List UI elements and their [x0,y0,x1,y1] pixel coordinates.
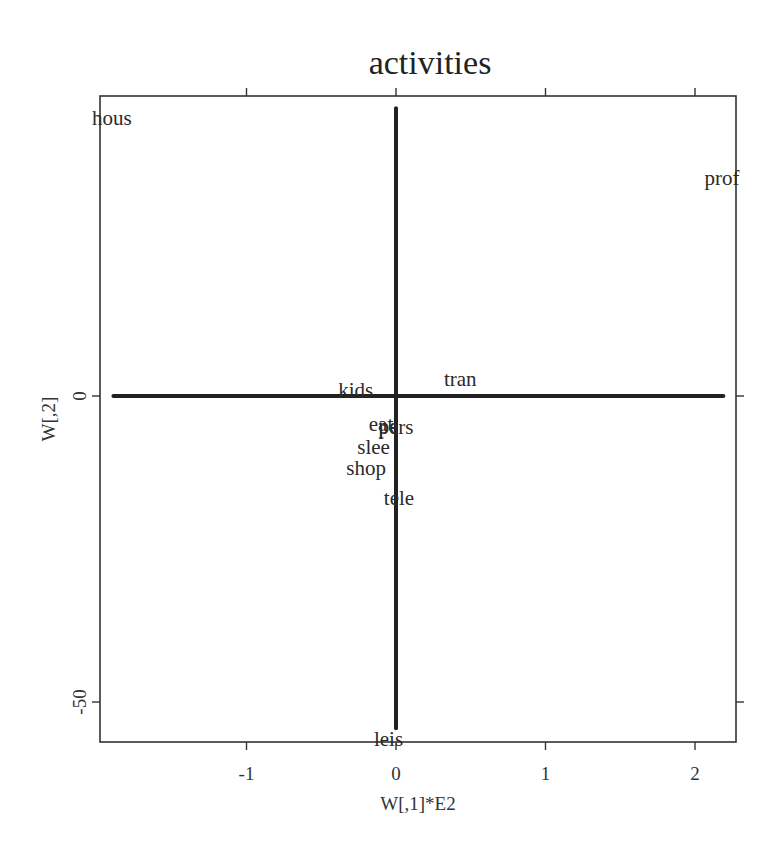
point-labels: housproftrankidseatpeperssleeshoptelelei… [92,106,739,751]
chart-title: activities [369,44,492,81]
y-axis-label: W[,2] [38,397,59,442]
x-tick-label: 0 [391,763,401,784]
point-label-leis: leis [374,727,403,751]
point-label-slee: slee [357,435,390,459]
point-label-kids: kids [338,378,373,402]
x-tick-label: 1 [541,763,551,784]
point-label-prof: prof [704,166,739,190]
x-axis-label: W[,1]*E2 [380,793,455,814]
x-tick-label: 2 [690,763,700,784]
y-tick-label: -50 [69,689,90,714]
point-label-tele: tele [384,486,414,510]
x-tick-label: -1 [239,763,255,784]
point-label-tran: tran [444,367,477,391]
point-label-hous: hous [92,106,132,130]
reference-lines [113,108,723,728]
y-tick-label: 0 [69,391,90,401]
y-axis-ticks: 0-50 [69,391,744,714]
biplot-chart: activities -1012 0-50 W[,1]*E2 W[,2] hou… [0,0,781,853]
x-axis-ticks: -1012 [239,88,700,784]
plot-frame [100,96,736,742]
point-label-shop: shop [346,456,386,480]
